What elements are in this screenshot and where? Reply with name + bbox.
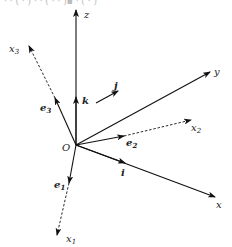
e2-label: e2 <box>126 137 137 150</box>
j-label: j <box>112 80 118 91</box>
e3-vector <box>55 98 76 145</box>
coordinate-frames-diagram: · · ( · ) · · ( · · )▪ · ( · ) O z y x x… <box>0 0 232 247</box>
z-label: z <box>83 9 90 20</box>
x2-label: x2 <box>191 122 202 135</box>
e3-label: e3 <box>40 102 51 115</box>
x3-label: x3 <box>9 43 20 56</box>
e1-label: e1 <box>54 179 65 192</box>
x-label: x <box>216 199 222 210</box>
y-axis <box>76 72 210 145</box>
j-vector-arrow <box>96 91 118 103</box>
svg-text:· · ( · ) · · ( · · )▪: · · ( · ) · · ( · · )▪ · ( · ) <box>4 0 97 6</box>
top-cut-text: · · ( · ) · · ( · · )▪ · ( · ) <box>4 0 97 6</box>
i-label: i <box>121 167 125 178</box>
y-label: y <box>213 66 220 77</box>
x1-label: x1 <box>66 233 76 246</box>
x2-axis <box>124 120 191 136</box>
i-vector <box>76 145 125 163</box>
k-label: k <box>82 95 89 106</box>
x3-axis <box>29 46 55 98</box>
origin-label: O <box>62 142 70 153</box>
